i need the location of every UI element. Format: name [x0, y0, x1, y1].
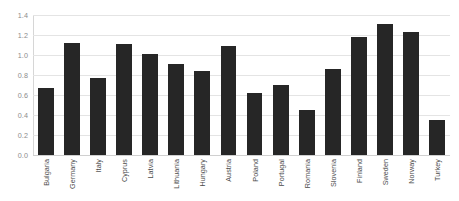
x-axis-tick-label: Romania: [303, 159, 312, 201]
x-axis-tick-label: Germany: [68, 159, 77, 201]
bar-slot: [189, 15, 215, 155]
x-axis-label-slot: Bulgaria: [33, 157, 59, 201]
x-axis-tick-label: Hungary: [199, 159, 208, 201]
bar[interactable]: [273, 85, 289, 155]
y-axis-tick-label: 0.4: [18, 111, 28, 120]
x-axis-tick-label: Austria: [225, 159, 234, 201]
x-axis-tick-label: Finland: [355, 159, 364, 201]
y-axis-tick-label: 0.8: [18, 71, 28, 80]
bar-slot: [163, 15, 189, 155]
x-axis-tick-label: Portugal: [277, 159, 286, 201]
bar-chart: 0.00.20.40.60.81.01.21.4 BulgariaGermany…: [0, 0, 459, 201]
bar[interactable]: [429, 120, 445, 155]
bar[interactable]: [90, 78, 106, 155]
y-axis-tick-label: 1.4: [18, 11, 28, 20]
bar[interactable]: [299, 110, 315, 155]
x-axis-tick-label: Norway: [407, 159, 416, 201]
x-axis-label-slot: Norway: [398, 157, 424, 201]
bar-slot: [372, 15, 398, 155]
bar-slot: [320, 15, 346, 155]
bar[interactable]: [116, 44, 132, 155]
y-axis-tick-label: 0.6: [18, 91, 28, 100]
x-axis-label-slot: Hungary: [189, 157, 215, 201]
x-axis-label-slot: Lithuania: [163, 157, 189, 201]
bar-slot: [33, 15, 59, 155]
x-axis-label-slot: Cyprus: [111, 157, 137, 201]
x-axis-label-slot: Finland: [346, 157, 372, 201]
bar[interactable]: [351, 37, 367, 155]
bar-slot: [268, 15, 294, 155]
bar[interactable]: [194, 71, 210, 155]
y-axis-tick-label: 0.0: [18, 151, 28, 160]
x-axis-tick-label: Sweden: [381, 159, 390, 201]
bar-slot: [137, 15, 163, 155]
x-axis: BulgariaGermanyItalyCyprusLatviaLithuani…: [33, 157, 450, 201]
plot-area: [33, 15, 450, 155]
x-axis-tick-label: Slovenia: [329, 159, 338, 201]
bar[interactable]: [247, 93, 263, 155]
bar[interactable]: [64, 43, 80, 155]
bar[interactable]: [168, 64, 184, 155]
bar[interactable]: [221, 46, 237, 155]
x-axis-label-slot: Slovenia: [320, 157, 346, 201]
bar-slot: [346, 15, 372, 155]
bar-slot: [424, 15, 450, 155]
x-axis-label-slot: Portugal: [268, 157, 294, 201]
x-axis-tick-label: Italy: [95, 159, 104, 201]
bar-slot: [398, 15, 424, 155]
y-axis-tick-label: 1.0: [18, 51, 28, 60]
gridline: [33, 155, 450, 156]
x-axis-label-slot: Latvia: [137, 157, 163, 201]
x-axis-tick-label: Poland: [251, 159, 260, 201]
x-axis-label-slot: Sweden: [372, 157, 398, 201]
x-axis-label-slot: Austria: [215, 157, 241, 201]
bar-slot: [215, 15, 241, 155]
y-axis-tick-label: 1.2: [18, 31, 28, 40]
bar[interactable]: [38, 88, 54, 155]
bar-slot: [242, 15, 268, 155]
bar[interactable]: [325, 69, 341, 155]
x-axis-label-slot: Italy: [85, 157, 111, 201]
x-axis-tick-label: Lithuania: [173, 159, 182, 201]
bars-series: [33, 15, 450, 155]
x-axis-label-slot: Germany: [59, 157, 85, 201]
x-axis-label-slot: Romania: [294, 157, 320, 201]
x-axis-label-slot: Poland: [242, 157, 268, 201]
y-axis: 0.00.20.40.60.81.01.21.4: [0, 0, 31, 201]
x-axis-tick-label: Cyprus: [121, 159, 130, 201]
bar-slot: [294, 15, 320, 155]
bar-slot: [111, 15, 137, 155]
y-axis-tick-label: 0.2: [18, 131, 28, 140]
x-axis-tick-label: Latvia: [147, 159, 156, 201]
x-axis-tick-label: Turkey: [433, 159, 442, 201]
x-axis-tick-label: Bulgaria: [42, 159, 51, 201]
bar[interactable]: [377, 24, 393, 155]
bar-slot: [85, 15, 111, 155]
bar-slot: [59, 15, 85, 155]
bar[interactable]: [403, 32, 419, 155]
x-axis-label-slot: Turkey: [424, 157, 450, 201]
bar[interactable]: [142, 54, 158, 155]
